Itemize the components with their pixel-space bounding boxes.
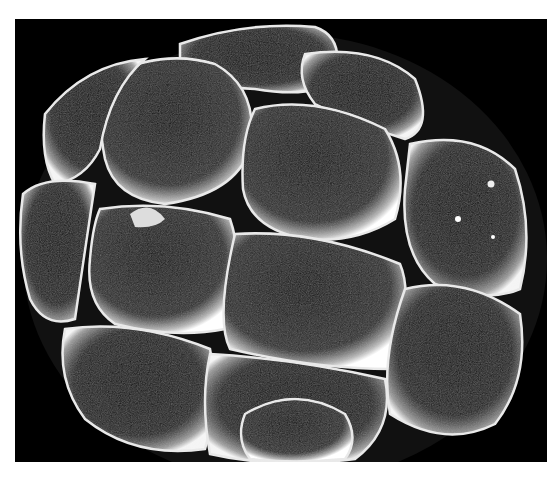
cell-lower-left	[63, 327, 215, 452]
debris-particle	[488, 181, 495, 188]
cell-lower-right	[387, 285, 522, 435]
debris-particle	[491, 235, 495, 239]
embryo-micrograph	[15, 19, 547, 462]
micrograph-frame	[15, 19, 547, 462]
cell-right	[404, 140, 526, 296]
debris-particle	[455, 216, 461, 222]
cell-middle-left	[89, 206, 237, 333]
cell-bottom-bulge	[241, 399, 353, 462]
cell-center-upper	[243, 105, 401, 240]
